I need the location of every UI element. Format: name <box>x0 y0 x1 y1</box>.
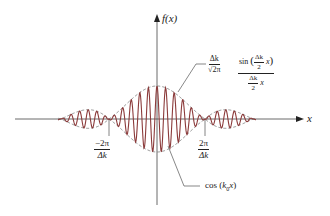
carrier-label: cos (k0x) <box>205 180 236 192</box>
tick-label-left: −2π Δk <box>94 139 110 160</box>
envelope-formula: sin (Δk2 x) Δk2 x <box>238 54 274 92</box>
amplitude-label: Δk √2π <box>208 55 220 74</box>
x-axis-arrow-icon <box>296 116 304 122</box>
tick-label-right: 2π Δk <box>198 139 209 160</box>
amplitude-leader-line <box>178 64 206 92</box>
x-axis-label: x <box>307 112 312 124</box>
wave-packet-figure <box>0 0 330 216</box>
y-axis-label: f(x) <box>162 12 177 24</box>
y-axis-arrow-icon <box>154 14 160 22</box>
carrier-leader-line <box>168 146 200 186</box>
